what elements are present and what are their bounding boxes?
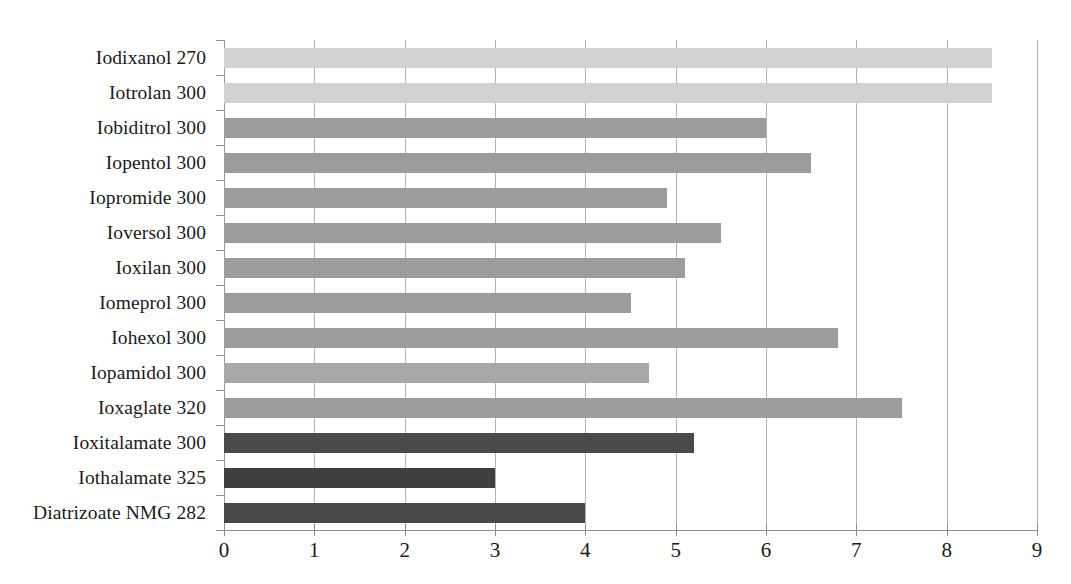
bar-row <box>224 40 1037 75</box>
y-axis-tick <box>216 530 224 531</box>
x-axis-tick-label: 1 <box>309 540 320 561</box>
x-axis-tick <box>1037 524 1038 536</box>
bar-row <box>224 215 1037 250</box>
x-axis-tick <box>676 524 677 536</box>
x-axis-ticks <box>224 524 1038 536</box>
y-axis-label: Ioversol 300 <box>0 215 216 250</box>
bar <box>224 398 902 418</box>
bar-chart: Iodixanol 270 Iotrolan 300 Iobiditrol 30… <box>0 0 1071 584</box>
x-axis-tick-label: 8 <box>941 540 952 561</box>
bar-row <box>224 460 1037 495</box>
bar <box>224 433 694 453</box>
x-axis-tick-label: 3 <box>490 540 501 561</box>
bar <box>224 83 992 103</box>
y-axis-tick <box>216 40 224 41</box>
x-axis-tick-label: 4 <box>580 540 591 561</box>
y-axis-label: Iotrolan 300 <box>0 75 216 110</box>
x-axis-tick <box>585 524 586 536</box>
y-axis-tick <box>216 355 224 356</box>
x-axis-tick <box>856 524 857 536</box>
y-axis-tick <box>216 215 224 216</box>
bar-row <box>224 110 1037 145</box>
bar <box>224 503 585 523</box>
bar-row <box>224 145 1037 180</box>
bar <box>224 468 495 488</box>
bar-row <box>224 250 1037 285</box>
bar <box>224 118 766 138</box>
y-axis-label: Iopamidol 300 <box>0 355 216 390</box>
y-axis-tick <box>216 180 224 181</box>
bar-series <box>224 40 1037 530</box>
bar-row <box>224 75 1037 110</box>
x-axis-tick <box>224 524 225 536</box>
y-axis-label: Iodixanol 270 <box>0 40 216 75</box>
y-axis-tick <box>216 285 224 286</box>
y-axis-label: Ioxilan 300 <box>0 250 216 285</box>
y-axis-tick <box>216 110 224 111</box>
bar <box>224 188 667 208</box>
x-axis-tick <box>947 524 948 536</box>
y-axis-tick <box>216 75 224 76</box>
x-axis-tick <box>405 524 406 536</box>
x-axis-tick <box>314 524 315 536</box>
x-axis-tick-label: 7 <box>851 540 862 561</box>
bar <box>224 258 685 278</box>
y-axis-label: Iothalamate 325 <box>0 460 216 495</box>
plot-area <box>224 40 1037 530</box>
y-axis-label: Ioxaglate 320 <box>0 390 216 425</box>
bar <box>224 153 811 173</box>
y-axis-tick <box>216 320 224 321</box>
y-axis-label: Ioxitalamate 300 <box>0 425 216 460</box>
bar <box>224 223 721 243</box>
x-axis-tick <box>495 524 496 536</box>
x-axis-tick-label: 5 <box>670 540 681 561</box>
bar-row <box>224 320 1037 355</box>
y-axis-tick <box>216 460 224 461</box>
x-axis-tick-label: 0 <box>219 540 230 561</box>
bar-row <box>224 285 1037 320</box>
y-axis-label: Diatrizoate NMG 282 <box>0 495 216 530</box>
bar <box>224 293 631 313</box>
y-axis-tick <box>216 145 224 146</box>
y-axis-tick <box>216 495 224 496</box>
bar-row <box>224 355 1037 390</box>
x-axis-tick <box>766 524 767 536</box>
y-axis-label: Iohexol 300 <box>0 320 216 355</box>
bar <box>224 363 649 383</box>
y-axis-label: Iopentol 300 <box>0 145 216 180</box>
bar <box>224 328 838 348</box>
bar <box>224 48 992 68</box>
y-axis-category-labels: Iodixanol 270 Iotrolan 300 Iobiditrol 30… <box>0 40 216 530</box>
bar-row <box>224 390 1037 425</box>
bar-row <box>224 180 1037 215</box>
y-axis-label: Iomeprol 300 <box>0 285 216 320</box>
gridline <box>1037 40 1038 530</box>
y-axis-ticks <box>216 40 224 530</box>
y-axis-label: Iobiditrol 300 <box>0 110 216 145</box>
bar-row <box>224 425 1037 460</box>
y-axis-label: Iopromide 300 <box>0 180 216 215</box>
x-axis-tick-label: 2 <box>399 540 410 561</box>
y-axis-tick <box>216 425 224 426</box>
x-axis-tick-labels: 0123456789 <box>224 540 1038 576</box>
y-axis-tick <box>216 250 224 251</box>
x-axis-tick-label: 9 <box>1032 540 1043 561</box>
y-axis-tick <box>216 390 224 391</box>
x-axis-tick-label: 6 <box>761 540 772 561</box>
